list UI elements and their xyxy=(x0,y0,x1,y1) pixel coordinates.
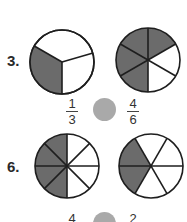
comparison-answer-circle[interactable] xyxy=(93,98,116,121)
problem-number: 6. xyxy=(7,158,20,175)
fraction-circle-eighths xyxy=(32,131,102,201)
fraction-circle-thirds xyxy=(27,27,97,97)
comparison-answer-circle[interactable] xyxy=(93,212,116,222)
fraction-left: 1 3 xyxy=(64,97,80,126)
fraction-left: 4 xyxy=(64,212,80,222)
fraction-circle-sixths-b xyxy=(116,131,186,201)
fraction-right: 4 6 xyxy=(125,97,141,126)
fraction-right: 2 xyxy=(125,212,141,222)
problem-number: 3. xyxy=(7,52,20,69)
fraction-circle-sixths xyxy=(113,25,183,95)
